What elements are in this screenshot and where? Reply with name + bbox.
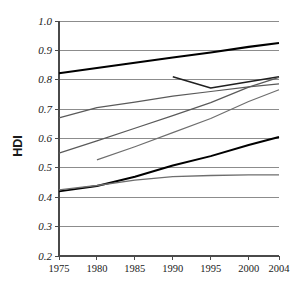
y-tick-label-0: 0.2 [38,250,52,262]
y-tick-label-8: 1.0 [38,15,52,27]
y-tick-label-7: 0.9 [38,44,52,56]
series-group [59,43,279,191]
x-tick-label-5: 2000 [238,263,259,274]
x-tick-labels-group: 1975198019851990199520002004 [49,263,291,274]
axes-group [55,21,279,260]
chart-container: 0.20.30.40.50.60.70.80.91.0 197519801985… [0,0,304,294]
x-tick-label-2: 1985 [124,263,145,274]
y-tick-labels-group: 0.20.30.40.50.60.70.80.91.0 [38,15,52,262]
x-tick-label-0: 1975 [49,263,70,274]
line-series-4 [59,77,279,153]
x-tick-label-3: 1990 [162,263,183,274]
y-tick-label-1: 0.3 [38,220,52,232]
x-tick-label-1: 1980 [86,263,107,274]
y-tick-label-4: 0.6 [38,132,52,144]
y-tick-label-2: 0.4 [38,191,52,203]
y-tick-label-3: 0.5 [38,161,52,173]
y-tick-label-5: 0.7 [38,103,52,115]
hdi-line-chart: 0.20.30.40.50.60.70.80.91.0 197519801985… [0,0,304,294]
y-tick-label-6: 0.8 [38,73,52,85]
y-axis-label: HDI [11,135,25,157]
line-series-6 [59,137,279,191]
gridlines-group [59,21,279,256]
line-series-2 [59,84,279,118]
line-series-5 [97,90,279,160]
x-tick-label-4: 1995 [200,263,221,274]
x-tick-label-6: 2004 [269,263,291,274]
line-series-1-top [59,43,279,73]
